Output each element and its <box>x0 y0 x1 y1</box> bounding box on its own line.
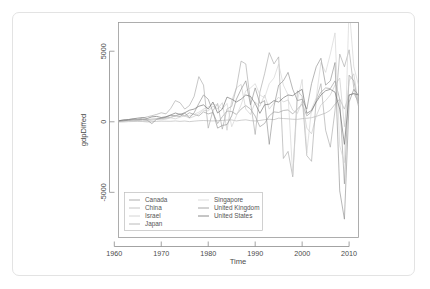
legend-label: Israel <box>145 212 161 219</box>
y-axis-title: gdpDiffed <box>79 114 88 146</box>
legend-label: Japan <box>145 220 163 228</box>
series-line-israel <box>119 74 359 134</box>
screenshot-root: 50000-5000 196019701980199020002010 Time… <box>0 0 430 289</box>
legend-items: CanadaChinaIsraelJapanSingaporeUnited Ki… <box>129 196 259 228</box>
x-tick-label: 1960 <box>106 249 122 258</box>
r-plot-device: 50000-5000 196019701980199020002010 Time… <box>12 12 415 276</box>
y-tick-label: 0 <box>99 120 108 124</box>
legend-label: Canada <box>145 196 168 203</box>
legend-label: United Kingdom <box>214 204 259 212</box>
y-tick-label: 5000 <box>99 43 108 59</box>
y-tick-labels: 50000-5000 <box>99 43 108 201</box>
series-line-canada <box>119 75 359 184</box>
y-tick-marks <box>110 51 115 192</box>
x-tick-label: 1980 <box>200 249 216 258</box>
x-tick-label: 2000 <box>294 249 310 258</box>
x-tick-label: 1990 <box>247 249 263 258</box>
legend-label: United States <box>214 212 252 219</box>
series-line-united-kingdom <box>119 58 359 219</box>
legend-label: Singapore <box>214 196 244 204</box>
x-axis: 196019701980199020002010 <box>106 242 357 259</box>
plot-svg: 50000-5000 196019701980199020002010 Time… <box>12 12 415 276</box>
y-axis: 50000-5000 <box>99 43 115 201</box>
x-tick-label: 2010 <box>341 249 357 258</box>
chart-legend: CanadaChinaIsraelJapanSingaporeUnited Ki… <box>125 193 263 231</box>
x-axis-title: Time <box>230 257 247 266</box>
x-tick-marks <box>114 242 349 247</box>
series-group <box>119 12 359 219</box>
x-tick-label: 1970 <box>153 249 169 258</box>
y-tick-label: -5000 <box>99 183 108 201</box>
legend-label: China <box>145 204 162 211</box>
